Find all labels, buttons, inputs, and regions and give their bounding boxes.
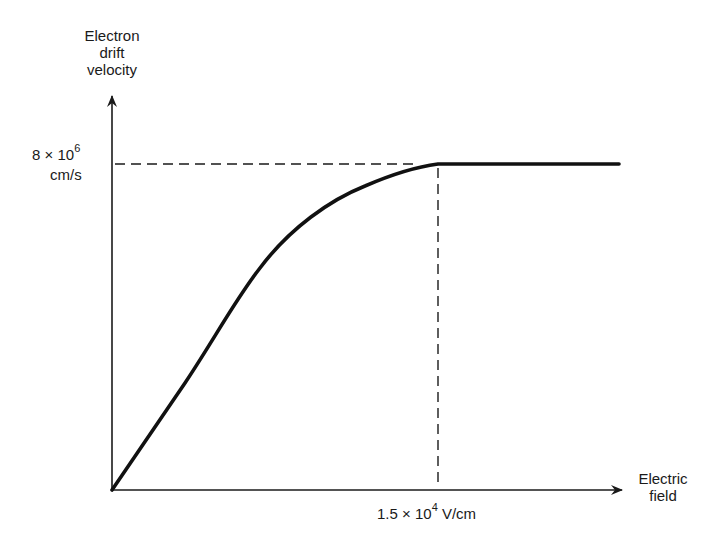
x-axis-title: Electric field: [628, 470, 698, 504]
y-tick-mantissa: 8 × 10: [32, 146, 74, 163]
drift-velocity-curve: [112, 164, 619, 490]
y-axis-title-line: velocity: [72, 61, 152, 78]
x-axis-title-line: Electric: [628, 470, 698, 487]
x-tick-label: 1.5 × 104 V/cm: [377, 505, 476, 522]
y-tick-label: 8 × 106: [32, 146, 80, 163]
x-tick-exponent: 4: [432, 501, 438, 513]
y-axis-title-line: drift: [72, 44, 152, 61]
x-axis-title-line: field: [628, 487, 698, 504]
y-tick-exponent: 6: [74, 142, 80, 154]
y-axis-title: Electron drift velocity: [72, 27, 152, 78]
y-axis-title-line: Electron: [72, 27, 152, 44]
x-tick-mantissa: 1.5 × 10: [377, 505, 432, 522]
x-tick-unit: V/cm: [438, 505, 476, 522]
y-tick-unit: cm/s: [50, 166, 82, 183]
chart-canvas: [0, 0, 722, 541]
